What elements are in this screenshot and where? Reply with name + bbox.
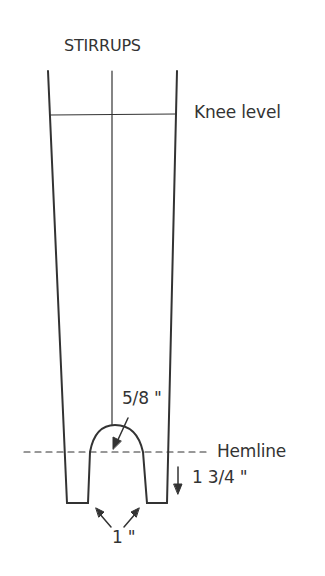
knee-line xyxy=(50,114,176,115)
extension-label: 1 3/4 " xyxy=(192,467,247,487)
stirrups-pattern-diagram xyxy=(0,0,325,576)
width-label: 1 " xyxy=(112,527,135,547)
arc-arrow-head xyxy=(113,437,121,449)
diagram-title: STIRRUPS xyxy=(64,36,141,55)
arc-radius-label: 5/8 " xyxy=(122,388,162,408)
left-side-line xyxy=(48,71,67,503)
stirrup-cutout xyxy=(67,425,167,503)
width-arrow-right-head xyxy=(131,508,139,517)
right-side-line xyxy=(167,71,177,503)
knee-level-label: Knee level xyxy=(194,102,281,122)
width-arrow-left-head xyxy=(96,508,104,517)
extension-arrow-head xyxy=(174,484,182,494)
hemline-label: Hemline xyxy=(217,441,286,461)
